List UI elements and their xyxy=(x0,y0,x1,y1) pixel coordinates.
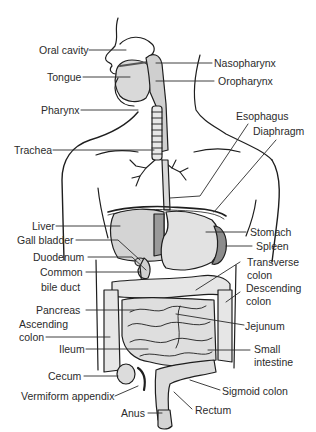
label-pharynx: Pharynx xyxy=(41,104,80,117)
label-ileum: Ileum xyxy=(59,343,85,356)
label-diaphragm: Diaphragm xyxy=(253,125,304,138)
label-rectum: Rectum xyxy=(195,404,231,417)
trachea-shape xyxy=(152,106,162,160)
label-pancreas: Pancreas xyxy=(36,304,80,317)
ascending-colon-shape xyxy=(104,290,120,372)
label-transverse-colon: Transverse colon xyxy=(247,256,299,281)
label-vermiform-appendix: Vermiform appendix xyxy=(21,390,114,403)
label-duodenum: Duodenum xyxy=(33,251,84,264)
label-descending-colon: Descending colon xyxy=(246,282,301,307)
label-ascending-colon: Ascending colon xyxy=(19,318,68,343)
label-common-bile-duct-line2: bile duct xyxy=(41,281,83,294)
label-liver: Liver xyxy=(32,220,55,233)
label-descending-colon-line1: Descending xyxy=(246,282,301,295)
label-cecum: Cecum xyxy=(48,370,81,383)
label-gall-bladder: Gall bladder xyxy=(17,234,74,247)
label-common-bile-duct-line1: Common xyxy=(40,266,83,279)
label-spleen: Spleen xyxy=(256,240,289,253)
label-small-intestine: Small intestine xyxy=(254,343,293,368)
label-ascending-colon-line2: colon xyxy=(19,331,68,344)
label-common-bile-duct: Common bile duct xyxy=(40,266,83,293)
label-ascending-colon-line1: Ascending xyxy=(19,318,68,331)
label-sigmoid-colon: Sigmoid colon xyxy=(222,385,288,398)
stomach-shape xyxy=(161,211,219,270)
descending-colon-shape xyxy=(218,290,232,362)
label-descending-colon-line2: colon xyxy=(246,295,301,308)
label-jejunum: Jejunum xyxy=(245,320,285,333)
label-tongue: Tongue xyxy=(47,71,81,84)
transverse-colon-shape xyxy=(112,275,230,298)
label-oropharynx: Oropharynx xyxy=(218,75,273,88)
label-transverse-colon-line2: colon xyxy=(247,269,299,282)
label-transverse-colon-line1: Transverse xyxy=(247,256,299,269)
label-stomach: Stomach xyxy=(250,226,291,239)
label-anus: Anus xyxy=(121,407,145,420)
label-oral-cavity: Oral cavity xyxy=(39,44,89,57)
esophagus-shape xyxy=(162,160,170,210)
appendix-shape xyxy=(138,368,145,390)
label-trachea: Trachea xyxy=(14,144,52,157)
label-esophagus: Esophagus xyxy=(236,110,289,123)
cecum-shape xyxy=(117,364,135,384)
label-small-intestine-line1: Small xyxy=(254,343,293,356)
label-small-intestine-line2: intestine xyxy=(254,356,293,369)
bronchi-shape xyxy=(130,160,188,186)
label-nasopharynx: Nasopharynx xyxy=(214,57,276,70)
